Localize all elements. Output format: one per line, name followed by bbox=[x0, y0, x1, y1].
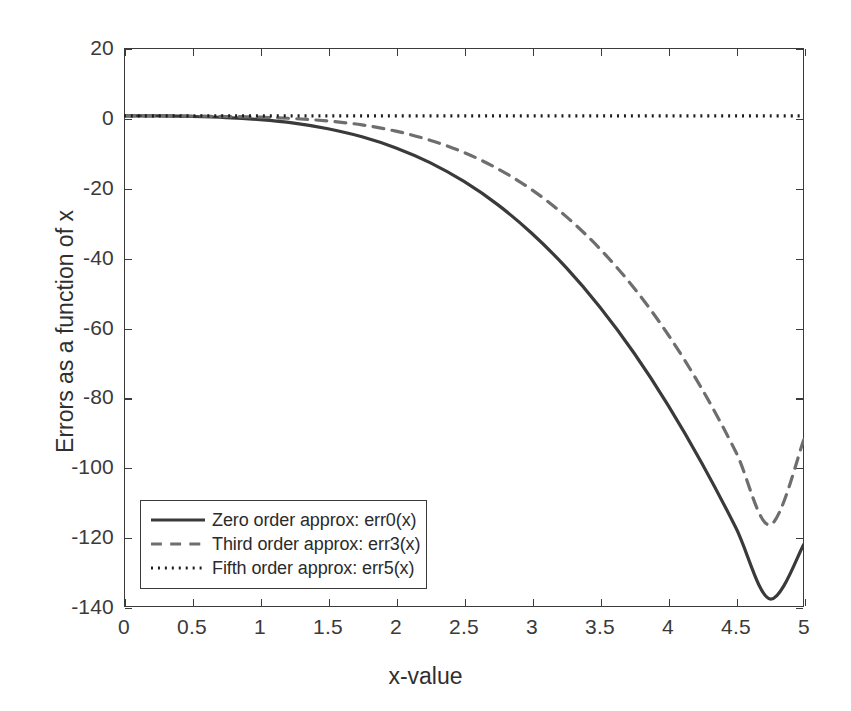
x-tick-label: 5 bbox=[798, 615, 810, 639]
legend-item-label: Third order approx: err3(x) bbox=[212, 534, 420, 555]
x-tick-label: 3 bbox=[526, 615, 538, 639]
x-tick-mark bbox=[261, 599, 262, 606]
x-tick-label: 0 bbox=[118, 615, 130, 639]
y-tick-mark bbox=[125, 119, 132, 120]
x-tick-mark bbox=[193, 49, 194, 56]
y-tick-mark bbox=[796, 329, 803, 330]
y-tick-mark bbox=[125, 468, 132, 469]
x-tick-mark bbox=[601, 599, 602, 606]
x-tick-mark bbox=[261, 49, 262, 56]
y-tick-mark bbox=[796, 468, 803, 469]
x-tick-mark bbox=[465, 49, 466, 56]
legend-item-label: Zero order approx: err0(x) bbox=[212, 510, 416, 531]
y-tick-mark bbox=[125, 49, 132, 50]
legend-item[interactable]: Zero order approx: err0(x) bbox=[150, 508, 417, 532]
figure-canvas: 00.511.522.533.544.55200-20-40-60-80-100… bbox=[0, 0, 851, 711]
x-tick-mark bbox=[669, 599, 670, 606]
x-tick-mark bbox=[601, 49, 602, 56]
chart-legend: Zero order approx: err0(x)Third order ap… bbox=[140, 500, 427, 589]
x-tick-mark bbox=[193, 599, 194, 606]
y-tick-mark bbox=[796, 538, 803, 539]
legend-line-sample-dotted bbox=[150, 560, 206, 576]
legend-line-sample-solid bbox=[150, 512, 206, 528]
y-tick-mark bbox=[796, 119, 803, 120]
x-tick-mark bbox=[397, 49, 398, 56]
y-axis-label: Errors as a function of x bbox=[52, 52, 79, 612]
x-tick-mark bbox=[533, 599, 534, 606]
x-tick-mark bbox=[669, 49, 670, 56]
x-tick-mark bbox=[533, 49, 534, 56]
x-tick-label: 4 bbox=[662, 615, 674, 639]
y-tick-mark bbox=[796, 398, 803, 399]
x-tick-label: 4.5 bbox=[721, 615, 751, 639]
x-tick-mark bbox=[805, 599, 806, 606]
x-tick-label: 3.5 bbox=[585, 615, 615, 639]
y-tick-mark bbox=[796, 49, 803, 50]
y-tick-mark bbox=[796, 189, 803, 190]
y-tick-mark bbox=[125, 398, 132, 399]
x-tick-mark bbox=[465, 599, 466, 606]
y-tick-mark bbox=[125, 608, 132, 609]
x-tick-mark bbox=[737, 49, 738, 56]
legend-item[interactable]: Fifth order approx: err5(x) bbox=[150, 556, 417, 580]
x-tick-mark bbox=[805, 49, 806, 56]
x-tick-mark bbox=[125, 599, 126, 606]
y-tick-mark bbox=[125, 538, 132, 539]
x-tick-mark bbox=[329, 49, 330, 56]
x-tick-label: 0.5 bbox=[177, 615, 207, 639]
x-axis-label: x-value bbox=[0, 663, 851, 690]
y-tick-mark bbox=[796, 608, 803, 609]
y-tick-mark bbox=[125, 189, 132, 190]
y-tick-mark bbox=[125, 329, 132, 330]
x-tick-mark bbox=[329, 599, 330, 606]
legend-item[interactable]: Third order approx: err3(x) bbox=[150, 532, 417, 556]
y-tick-mark bbox=[796, 259, 803, 260]
x-tick-label: 1.5 bbox=[313, 615, 343, 639]
y-tick-mark bbox=[125, 259, 132, 260]
x-tick-label: 1 bbox=[254, 615, 266, 639]
legend-item-label: Fifth order approx: err5(x) bbox=[212, 558, 414, 579]
legend-line-sample-dashed bbox=[150, 536, 206, 552]
x-tick-mark bbox=[737, 599, 738, 606]
x-tick-label: 2 bbox=[390, 615, 402, 639]
x-tick-mark bbox=[397, 599, 398, 606]
x-tick-label: 2.5 bbox=[449, 615, 479, 639]
